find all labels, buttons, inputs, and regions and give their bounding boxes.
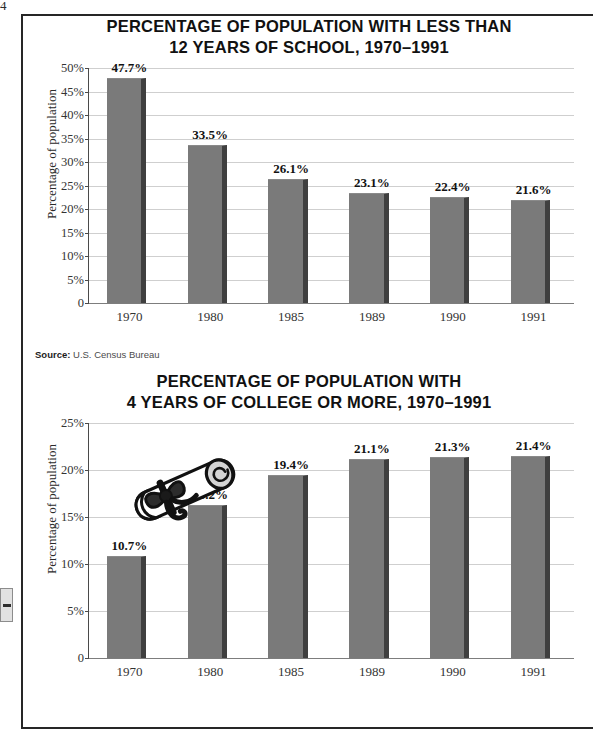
gridline [89, 92, 574, 93]
bar-group-top[interactable]: 22.4%1990 [430, 68, 475, 303]
y-tick-label: 25% [61, 178, 84, 193]
y-tick-mark [85, 186, 89, 187]
bar[interactable] [107, 556, 146, 658]
chart-title-top-line1: PERCENTAGE OF POPULATION WITH LESS THAN [106, 17, 511, 35]
x-axis-label: 1985 [268, 309, 313, 325]
gridline [89, 186, 574, 187]
y-tick-label: 20% [61, 202, 84, 217]
bar[interactable] [349, 193, 388, 303]
y-tick-mark [85, 303, 89, 304]
gridline [89, 162, 574, 163]
y-tick-mark [85, 564, 89, 565]
bar-value-label: 21.6% [511, 182, 556, 198]
x-axis-label: 1990 [430, 664, 475, 680]
y-tick-label: 35% [61, 131, 84, 146]
source-text-top: U.S. Census Bureau [73, 349, 160, 360]
source-note-top: Source: U.S. Census Bureau [35, 349, 160, 360]
bar-value-label: 47.7% [107, 60, 152, 76]
bar-group-top[interactable]: 47.7%1970 [107, 68, 152, 303]
gridline [89, 139, 574, 140]
bar-value-label: 21.3% [430, 439, 475, 455]
y-tick-mark [85, 162, 89, 163]
gridline [89, 115, 574, 116]
bar-value-label: 22.4% [430, 179, 475, 195]
gridline [89, 423, 574, 424]
y-tick-mark [85, 92, 89, 93]
plot-area-top: 05%10%15%20%25%30%35%40%45%50%47.7%19703… [88, 68, 574, 304]
x-axis-label: 1991 [511, 664, 556, 680]
chart-title-bottom-line1: PERCENTAGE OF POPULATION WITH [157, 372, 462, 390]
y-tick-mark [85, 68, 89, 69]
bar[interactable] [511, 456, 550, 658]
y-tick-mark [85, 139, 89, 140]
y-tick-label: 10% [61, 557, 84, 572]
x-axis-label: 1970 [107, 664, 152, 680]
y-tick-label: 25% [61, 416, 84, 431]
x-axis-label: 1989 [349, 664, 394, 680]
y-tick-mark [85, 209, 89, 210]
y-tick-mark [85, 280, 89, 281]
bar-value-label: 21.4% [511, 438, 556, 454]
page-frame: PERCENTAGE OF POPULATION WITH LESS THAN … [21, 14, 593, 729]
bar[interactable] [268, 179, 307, 303]
bar-group-bottom[interactable]: 19.4%1985 [268, 423, 313, 658]
y-tick-label: 5% [67, 272, 84, 287]
bar-value-label: 33.5% [188, 127, 233, 143]
bar[interactable] [511, 200, 550, 303]
y-tick-mark [85, 115, 89, 116]
y-tick-label: 40% [61, 108, 84, 123]
chart-title-bottom: PERCENTAGE OF POPULATION WITH 4 YEARS OF… [23, 371, 593, 413]
gridline [89, 68, 574, 69]
chart-area-top: Percentage of population 05%10%15%20%25%… [23, 68, 593, 326]
figure-four-years-college: PERCENTAGE OF POPULATION WITH 4 YEARS OF… [23, 371, 593, 681]
x-axis-label: 1980 [188, 664, 233, 680]
bar-group-bottom[interactable]: 21.1%1989 [349, 423, 394, 658]
bar-group-bottom[interactable]: 21.3%1990 [430, 423, 475, 658]
bar-group-bottom[interactable]: 21.4%1991 [511, 423, 556, 658]
y-tick-mark [85, 256, 89, 257]
bar[interactable] [188, 145, 227, 303]
y-tick-label: 10% [61, 249, 84, 264]
bar[interactable] [430, 457, 469, 658]
y-tick-label: 0 [78, 651, 84, 666]
chart-title-bottom-line2: 4 YEARS OF COLLEGE OR MORE, 1970–1991 [63, 392, 555, 413]
gridline [89, 611, 574, 612]
bar-group-top[interactable]: 26.1%1985 [268, 68, 313, 303]
bar[interactable] [430, 197, 469, 303]
x-axis-label: 1980 [188, 309, 233, 325]
bar[interactable] [107, 78, 146, 303]
chart-title-top-line2: 12 YEARS OF SCHOOL, 1970–1991 [63, 37, 555, 58]
y-tick-label: 15% [61, 510, 84, 525]
chart-area-bottom: Percentage of population 05%10%15%20%25%… [23, 423, 593, 681]
bar-group-top[interactable]: 23.1%1989 [349, 68, 394, 303]
bar-value-label: 23.1% [349, 175, 394, 191]
bar[interactable] [268, 475, 307, 658]
bar-group-top[interactable]: 33.5%1980 [188, 68, 233, 303]
x-axis-label: 1990 [430, 309, 475, 325]
gridline [89, 564, 574, 565]
bar-group-top[interactable]: 21.6%1991 [511, 68, 556, 303]
gridline [89, 517, 574, 518]
bar[interactable] [349, 459, 388, 658]
y-axis-title-bottom: Percentage of population [44, 424, 60, 594]
y-tick-mark [85, 233, 89, 234]
chart-title-top: PERCENTAGE OF POPULATION WITH LESS THAN … [23, 16, 593, 58]
gridline [89, 256, 574, 257]
bar-group-bottom[interactable]: 16.2%1980 [188, 423, 233, 658]
page-edge-tab-marker[interactable] [0, 588, 13, 622]
gridline [89, 209, 574, 210]
y-tick-label: 15% [61, 225, 84, 240]
y-axis-title-top: Percentage of population [44, 69, 60, 239]
gridline [89, 280, 574, 281]
page-number: 4 [0, 0, 14, 14]
gridline [89, 470, 574, 471]
y-tick-mark [85, 470, 89, 471]
y-tick-label: 20% [61, 463, 84, 478]
bar-value-label: 26.1% [268, 161, 313, 177]
bar-group-bottom[interactable]: 10.7%1970 [107, 423, 152, 658]
y-tick-mark [85, 517, 89, 518]
gridline [89, 233, 574, 234]
y-tick-label: 50% [61, 61, 84, 76]
bar[interactable] [188, 505, 227, 658]
bar-value-label: 21.1% [349, 441, 394, 457]
